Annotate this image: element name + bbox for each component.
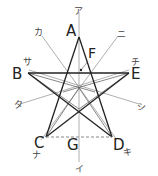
label-shi: シ: [137, 102, 146, 112]
label-ni: ニ: [117, 29, 126, 39]
label-ka: カ: [34, 27, 43, 37]
label-F: F: [88, 45, 96, 61]
label-chi: チ: [131, 57, 140, 67]
axis-ni-na: [41, 36, 118, 140]
label-B: B: [12, 65, 22, 83]
label-ki: キ: [123, 147, 132, 157]
label-na: ナ: [32, 150, 41, 160]
label-a: ア: [74, 6, 83, 16]
point-F-dot: [80, 69, 82, 71]
pointer-F: [82, 61, 88, 69]
label-i: イ: [75, 164, 84, 174]
label-A: A: [66, 22, 77, 40]
inner-lines: [28, 73, 129, 137]
label-ta: タ: [14, 100, 23, 110]
pentagram-diagram: A B E C D G F ア イ カ ニ サ チ タ シ ナ キ: [0, 0, 158, 176]
label-sa: サ: [23, 57, 32, 67]
label-E: E: [131, 65, 140, 83]
label-G: G: [67, 136, 79, 154]
